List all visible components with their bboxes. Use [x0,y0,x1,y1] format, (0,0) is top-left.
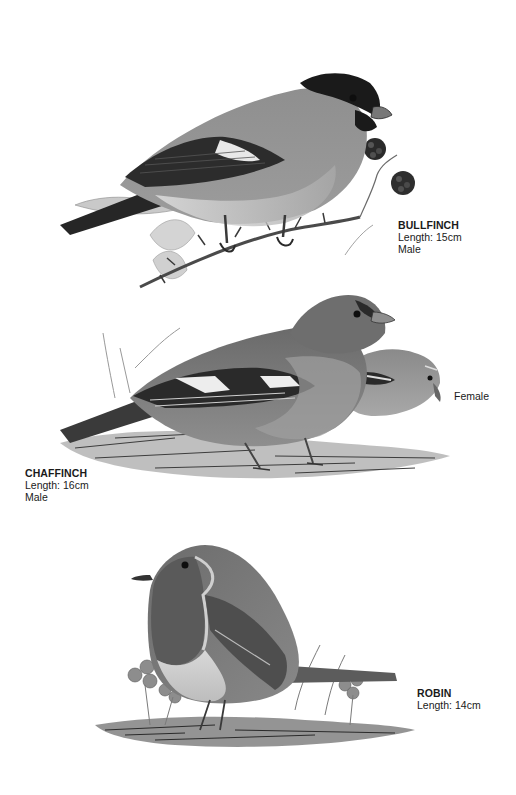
species-sex: Male [398,243,462,255]
female-caption: Female [454,390,489,402]
species-length: Length: 16cm [25,479,89,491]
species-name: ROBIN [417,687,481,699]
robin-illustration [95,535,425,755]
bullfinch-label: BULLFINCH Length: 15cm Male [398,219,462,255]
robin-label: ROBIN Length: 14cm [417,687,481,711]
bullfinch-illustration [55,65,435,295]
species-name: BULLFINCH [398,219,462,231]
chaffinch-female-label: Female [454,390,489,402]
chaffinch-illustration [55,278,455,488]
species-length: Length: 15cm [398,231,462,243]
species-name: CHAFFINCH [25,467,89,479]
species-length: Length: 14cm [417,699,481,711]
chaffinch-label: CHAFFINCH Length: 16cm Male [25,467,89,503]
species-sex: Male [25,491,89,503]
